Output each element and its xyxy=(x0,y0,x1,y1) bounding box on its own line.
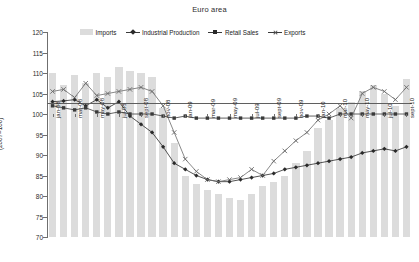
x-axis-tick xyxy=(163,114,164,117)
x-axis-tick xyxy=(53,114,54,117)
y-axis-tick-label: 110 xyxy=(25,70,43,77)
y-axis-tick-label: 75 xyxy=(25,213,43,220)
x-axis-labels: jan-08mar-08may-08jul-08sept-08nov-08jan… xyxy=(47,32,412,237)
x-axis-tick-label: may-08 xyxy=(99,98,105,118)
x-axis-tick-label: sept-10 xyxy=(409,98,415,118)
x-axis-tick-label: mar-09 xyxy=(210,99,216,118)
plot-area: jan-08mar-08may-08jul-08sept-08nov-08jan… xyxy=(47,32,412,237)
x-axis-tick xyxy=(207,114,208,117)
x-axis-tick-label: jul-08 xyxy=(121,103,127,118)
x-axis-tick-label: may-10 xyxy=(364,98,370,118)
x-axis-tick xyxy=(75,114,76,117)
y-axis-tick-label: 95 xyxy=(25,131,43,138)
x-axis-tick xyxy=(97,114,98,117)
chart-root: Euro area Imports Industrial Production … xyxy=(0,0,419,262)
y-axis-tick-label: 70 xyxy=(25,234,43,241)
x-axis-tick xyxy=(274,114,275,117)
y-axis-title: (2007=100) xyxy=(0,118,3,150)
x-axis-tick xyxy=(406,114,407,117)
x-axis-tick xyxy=(141,114,142,117)
x-axis-tick-label: sept-08 xyxy=(143,98,149,118)
y-axis-tick-label: 80 xyxy=(25,193,43,200)
x-axis-tick-label: jul-09 xyxy=(254,103,260,118)
x-axis-tick-label: jan-09 xyxy=(187,101,193,118)
x-axis-tick xyxy=(252,114,253,117)
x-axis-tick-label: jan-08 xyxy=(55,101,61,118)
x-axis-tick-label: mar-08 xyxy=(77,99,83,118)
chart-title: Euro area xyxy=(0,5,419,14)
x-axis-tick-label: nov-08 xyxy=(165,100,171,118)
x-axis-tick xyxy=(230,114,231,117)
x-axis-tick xyxy=(340,114,341,117)
x-axis-tick-label: may-09 xyxy=(232,98,238,118)
y-axis-tick-label: 105 xyxy=(25,90,43,97)
x-axis-tick-label: jul-10 xyxy=(387,103,393,118)
y-axis-tick-label: 90 xyxy=(25,152,43,159)
x-axis-tick-label: jan-10 xyxy=(320,101,326,118)
x-axis-tick xyxy=(119,114,120,117)
y-axis-tick-label: 100 xyxy=(25,111,43,118)
x-axis-tick-label: nov-09 xyxy=(298,100,304,118)
x-axis-tick xyxy=(296,114,297,117)
y-axis-tick-label: 85 xyxy=(25,172,43,179)
y-axis-tick-label: 115 xyxy=(25,49,43,56)
x-axis-tick-label: sept-09 xyxy=(276,98,282,118)
x-axis-tick xyxy=(384,114,385,117)
x-axis-tick xyxy=(318,114,319,117)
y-axis-tick-label: 120 xyxy=(25,29,43,36)
x-axis-tick-label: mar-10 xyxy=(342,99,348,118)
